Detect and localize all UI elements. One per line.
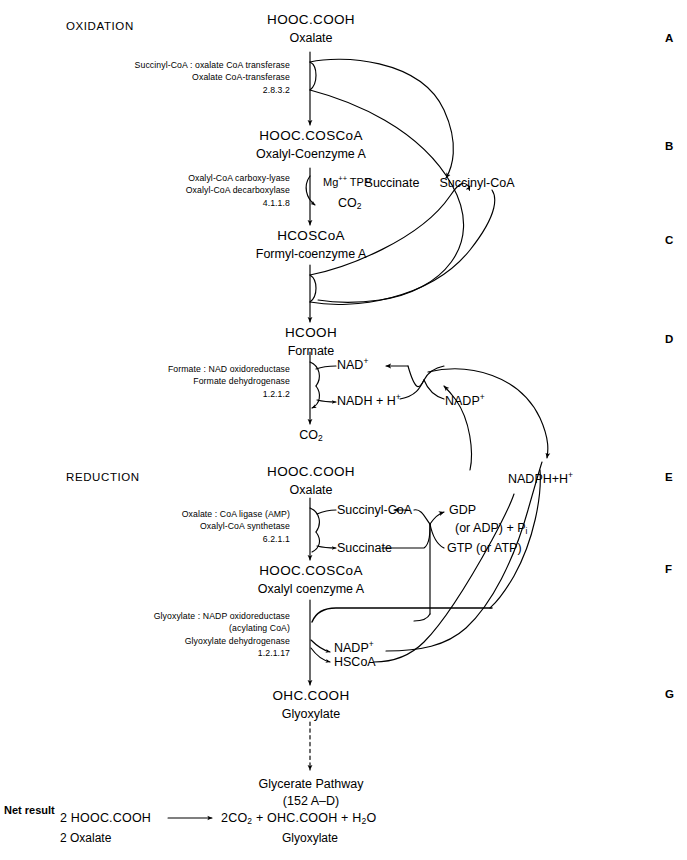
metabolite-oxalyl-coa-bottom-name: Oxalyl coenzyme A <box>258 582 364 597</box>
net-result-right-a: 2CO <box>221 811 247 825</box>
cofactor-gdp: GDP <box>449 503 476 518</box>
cofactor-nadph-h-plus: +H <box>552 472 568 486</box>
metabolite-oxalyl-coa-top-name: Oxalyl-Coenzyme A <box>256 147 366 162</box>
enzyme-coa-ligase-line2: Oxalyl-CoA synthetase <box>182 520 290 532</box>
metabolite-oxalate-top-formula: HOOC.COOH <box>267 12 355 28</box>
cofactor-nadp-plus-upper-text: NADP <box>445 394 480 408</box>
enzyme-carboxy-lyase-ec: 4.1.1.8 <box>186 197 290 209</box>
enzyme-coa-transferase-line1: Succinyl-CoA : oxalate CoA transferase <box>135 59 290 71</box>
cofactor-nad-plus-charge: + <box>363 356 368 366</box>
metabolite-formate-name: Formate <box>288 344 335 359</box>
cofactor-mg-tpp-charge: ++ <box>338 174 347 183</box>
cofactor-mg-tpp-text: Mg <box>323 176 338 188</box>
cofactor-succinate-top: Succinate <box>365 176 420 191</box>
metabolite-oxalate-bottom-formula: HOOC.COOH <box>267 464 355 480</box>
net-result-right-name: Glyoxylate <box>282 831 338 845</box>
cofactor-co2-oxidation-text: CO <box>338 196 357 210</box>
cofactor-nadh-h-text: NADH + H <box>337 394 396 408</box>
enzyme-coa-transferase-ec: 2.8.3.2 <box>135 84 290 96</box>
margin-letter-a: A <box>665 32 674 46</box>
section-label-oxidation: OXIDATION <box>66 20 134 34</box>
cofactor-nadp-plus-lower-text: NADP <box>334 641 369 655</box>
enzyme-glyoxylate-dehydrogenase-line3: Glyoxylate dehydrogenase <box>154 635 290 647</box>
cofactor-gdp-alternative: (or ADP) + Pi <box>455 521 527 536</box>
cofactor-nadh-h-charge: + <box>396 392 401 402</box>
enzyme-formate-dehydrogenase-line2: Formate dehydrogenase <box>168 375 290 387</box>
enzyme-carboxy-lyase-line2: Oxalyl-CoA decarboxylase <box>186 184 290 196</box>
metabolite-glyoxylate-name: Glyoxylate <box>282 707 340 722</box>
cofactor-nadh-h: NADH + H+ <box>337 394 401 409</box>
metabolite-formyl-coa-formula: HCOSCoA <box>277 228 345 244</box>
net-result-label: Net result <box>4 804 55 817</box>
enzyme-coa-ligase-ec: 6.2.1.1 <box>182 533 290 545</box>
net-result-right-c: O <box>366 811 376 825</box>
metabolite-oxalyl-coa-top-formula: HOOC.COSCoA <box>259 128 363 144</box>
cofactor-succinate-lower: Succinate <box>337 541 392 556</box>
section-label-reduction: REDUCTION <box>66 471 140 485</box>
enzyme-formate-dehydrogenase-ec: 1.2.1.2 <box>168 388 290 400</box>
cofactor-co2-formate: CO2 <box>299 428 322 443</box>
metabolite-glyoxylate-formula: OHC.COOH <box>272 688 349 704</box>
net-result-right-b: + OHC.COOH + H <box>252 811 361 825</box>
margin-letter-c: C <box>665 234 674 248</box>
cofactor-hscoa: HSCoA <box>334 655 376 670</box>
enzyme-glyoxylate-dehydrogenase: Glyoxylate : NADP oxidoreductase (acylat… <box>154 610 290 659</box>
cofactor-succinyl-coa-lower: Succinyl-CoA <box>337 503 412 518</box>
metabolite-formyl-coa-name: Formyl-coenzyme A <box>256 247 366 262</box>
metabolite-oxalyl-coa-bottom-formula: HOOC.COSCoA <box>259 563 363 579</box>
cofactor-nadp-plus-lower: NADP+ <box>334 641 374 656</box>
net-result-left-name: 2 Oxalate <box>60 831 111 845</box>
enzyme-coa-ligase: Oxalate : CoA ligase (AMP) Oxalyl-CoA sy… <box>182 508 290 545</box>
net-result-left-formula: 2 HOOC.COOH <box>60 811 151 826</box>
margin-letter-g: G <box>665 688 674 702</box>
cofactor-nadp-plus-lower-charge: + <box>369 639 374 649</box>
metabolite-oxalate-top-name: Oxalate <box>289 31 332 46</box>
cofactor-nadp-plus-upper-charge: + <box>480 392 485 402</box>
enzyme-carboxy-lyase-line1: Oxalyl-CoA carboxy-lyase <box>186 172 290 184</box>
enzyme-coa-ligase-line1: Oxalate : CoA ligase (AMP) <box>182 508 290 520</box>
metabolite-formate-formula: HCOOH <box>285 325 337 341</box>
cofactor-gdp-alternative-sub: i <box>526 526 528 536</box>
enzyme-glyoxylate-dehydrogenase-line1: Glyoxylate : NADP oxidoreductase <box>154 610 290 622</box>
downstream-pathway-title: Glycerate Pathway <box>259 777 364 792</box>
cofactor-gtp: GTP (or ATP) <box>447 541 522 556</box>
margin-letter-e: E <box>665 471 673 485</box>
margin-letter-b: B <box>665 140 674 154</box>
pathway-diagram: OXIDATION REDUCTION A B C D E F G HOOC.C… <box>0 0 687 860</box>
cofactor-nadph-h: NADPH+H+ <box>508 472 573 487</box>
enzyme-formate-dehydrogenase: Formate : NAD oxidoreductase Formate deh… <box>168 363 290 400</box>
enzyme-glyoxylate-dehydrogenase-ec: 1.2.1.17 <box>154 647 290 659</box>
enzyme-coa-transferase-line2: Oxalate CoA-transferase <box>135 71 290 83</box>
cofactor-nad-plus-text: NAD <box>337 358 363 372</box>
cofactor-co2-oxidation-sub: 2 <box>357 201 362 211</box>
enzyme-formate-dehydrogenase-line1: Formate : NAD oxidoreductase <box>168 363 290 375</box>
cofactor-nadph-h-charge: + <box>568 470 573 480</box>
cofactor-co2-oxidation: CO2 <box>338 196 361 211</box>
cofactor-co2-formate-sub: 2 <box>318 433 323 443</box>
metabolite-oxalate-bottom-name: Oxalate <box>289 483 332 498</box>
enzyme-carboxy-lyase: Oxalyl-CoA carboxy-lyase Oxalyl-CoA deca… <box>186 172 290 209</box>
cofactor-co2-formate-text: CO <box>299 428 318 442</box>
cofactor-nadph-h-text: NADPH <box>508 472 552 486</box>
cofactor-gdp-alternative-text: (or ADP) + P <box>455 521 526 535</box>
cofactor-succinyl-coa-top: Succinyl-CoA <box>439 176 514 191</box>
cofactor-nadp-plus-upper: NADP+ <box>445 394 485 409</box>
margin-letter-d: D <box>665 333 674 347</box>
net-result-right-formula: 2CO2 + OHC.COOH + H2O <box>221 811 376 826</box>
cofactor-nad-plus: NAD+ <box>337 358 368 373</box>
downstream-pathway-reference: (152 A–D) <box>283 794 339 809</box>
enzyme-glyoxylate-dehydrogenase-line2: (acylating CoA) <box>154 622 290 634</box>
margin-letter-f: F <box>665 563 673 577</box>
enzyme-coa-transferase: Succinyl-CoA : oxalate CoA transferase O… <box>135 59 290 96</box>
